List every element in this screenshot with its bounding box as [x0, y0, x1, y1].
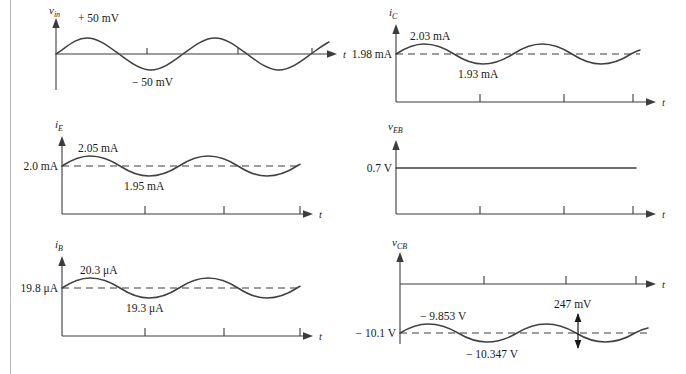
trough-value-label: 19.3 μA [126, 302, 164, 315]
waveform-trace [62, 278, 300, 298]
x-axis-label: t [319, 209, 323, 220]
x-axis-label: t [662, 97, 666, 108]
y-axis-label: vEB [388, 120, 403, 135]
y-axis-label: vCB [392, 236, 407, 251]
y-axis-label: vin [49, 4, 60, 19]
plot-v-cb: 247 mV vCB t − 10.1 V − 9.853 V − 10.347… [348, 236, 683, 366]
y-axis-label: iC [389, 6, 398, 21]
plot-i-e: iE t 2.0 mA 2.05 mA 1.95 mA [0, 116, 340, 226]
y-axis-label: iE [55, 118, 63, 133]
quiescent-value-label: 19.8 μA [21, 282, 59, 295]
plot-i-b: iB t 19.8 μA 20.3 μA 19.3 μA [0, 236, 340, 351]
y-axis-arrowhead [396, 252, 403, 262]
peak-value-label: − 9.853 V [420, 310, 467, 322]
quiescent-value-label: 2.0 mA [24, 160, 59, 172]
y-axis-arrowhead [392, 24, 399, 34]
annotation-label: 247 mV [554, 298, 592, 310]
trough-value-label: − 10.347 V [466, 348, 519, 360]
x-axis-label: t [319, 331, 323, 342]
y-axis-label: iB [55, 238, 63, 253]
trough-value-label: 1.95 mA [124, 180, 165, 192]
waveform-trace [62, 156, 300, 176]
peak-value-label: 2.05 mA [78, 142, 119, 154]
annotation-arrowhead-down [575, 340, 582, 349]
plot-v-in: vin t + 50 mV − 50 mV [30, 2, 350, 102]
x-axis-label: t [662, 279, 666, 290]
quiescent-value-label: 0.7 V [367, 162, 393, 174]
x-axis-arrowhead [303, 210, 313, 217]
y-axis-arrowhead [392, 140, 399, 150]
x-axis-arrowhead [303, 332, 313, 339]
trough-value-label: 1.93 mA [458, 68, 499, 80]
x-axis-arrowhead [646, 280, 656, 287]
peak-value-label: 20.3 μA [80, 264, 118, 277]
waveform-figure: vin t + 50 mV − 50 mV iC t 1.98 mA 2.03 … [0, 0, 686, 374]
x-axis-arrowhead [646, 210, 656, 217]
x-axis-arrowhead [646, 98, 656, 105]
peak-value-label: + 50 mV [78, 12, 120, 24]
quiescent-value-label: − 10.1 V [356, 327, 397, 339]
plot-v-eb: vEB t 0.7 V [348, 116, 678, 226]
x-axis-label: t [343, 49, 347, 60]
x-axis-arrowhead [327, 50, 337, 57]
quiescent-value-label: 1.98 mA [352, 48, 393, 60]
y-axis-arrowhead [52, 18, 59, 28]
peak-value-label: 2.03 mA [410, 30, 451, 42]
trough-value-label: − 50 mV [132, 76, 174, 88]
y-axis-arrowhead [58, 136, 65, 146]
y-axis-arrowhead [58, 256, 65, 266]
plot-i-c: iC t 1.98 mA 2.03 mA 1.93 mA [348, 2, 678, 112]
x-axis-label: t [662, 209, 666, 220]
annotation-arrowhead-up [575, 313, 582, 322]
